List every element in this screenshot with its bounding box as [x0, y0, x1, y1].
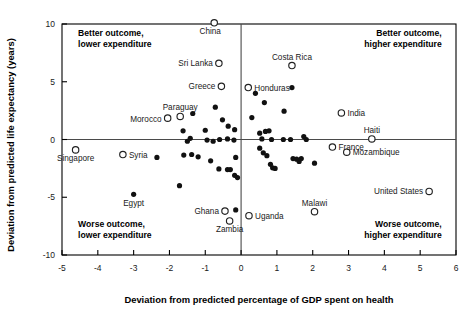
x-tick-label: 3 [346, 263, 351, 273]
data-point-costa-rica [289, 62, 295, 68]
quadrant-note-0-line-0: Better outcome, [78, 28, 143, 38]
data-point-singapore [72, 147, 78, 153]
data-point [281, 137, 286, 142]
x-tick-label: -2 [166, 263, 174, 273]
data-point [304, 137, 309, 142]
data-point [262, 100, 267, 105]
data-point [217, 137, 222, 142]
point-label-malawi: Malawi [302, 199, 328, 208]
data-point [185, 139, 190, 144]
point-label-united-states: United States [374, 187, 423, 196]
x-tick-label: -1 [201, 263, 209, 273]
data-point [312, 161, 317, 166]
point-label-ghana: Ghana [194, 207, 219, 216]
data-point [196, 154, 201, 159]
data-point-zambia [226, 218, 232, 224]
point-label-india: India [347, 109, 365, 118]
data-point [208, 158, 213, 163]
data-point-morocco [164, 115, 170, 121]
data-point-india [338, 110, 344, 116]
chart-canvas: -5-4-3-2-10123456 -10-50510 ChinaSri Lan… [0, 0, 467, 314]
quadrant-note-1-line-1: higher expenditure [364, 39, 442, 49]
data-point-malawi [311, 208, 317, 214]
data-point-ghana [222, 208, 228, 214]
data-point [232, 173, 237, 178]
data-point [259, 136, 264, 141]
data-point [204, 137, 209, 142]
data-point [216, 166, 221, 171]
quadrant-note-1-line-0: Better outcome, [376, 28, 441, 38]
data-point [289, 85, 294, 90]
quadrant-note-3-line-0: Worse outcome, [375, 219, 442, 229]
data-point [281, 109, 286, 114]
y-tick-label: 10 [46, 19, 56, 29]
x-tick-label: -3 [130, 263, 138, 273]
point-label-sri-lanka: Sri Lanka [178, 59, 213, 68]
point-label-syria: Syria [129, 151, 148, 160]
y-tick-label: -10 [43, 250, 56, 260]
data-point [154, 155, 159, 160]
data-point [203, 128, 208, 133]
data-point [228, 167, 233, 172]
data-point-paraguay [177, 113, 183, 119]
data-point [226, 124, 231, 129]
data-point [225, 136, 230, 141]
data-point [269, 137, 274, 142]
scatter-chart-figure: -5-4-3-2-10123456 -10-50510 ChinaSri Lan… [0, 0, 467, 314]
data-point [232, 127, 237, 132]
data-point [233, 207, 238, 212]
data-point-united-states [426, 188, 432, 194]
quadrant-note-2-line-0: Worse outcome, [78, 219, 145, 229]
data-point [233, 155, 238, 160]
point-label-mozambique: Mozambique [353, 148, 400, 157]
data-point-greece [218, 83, 224, 89]
data-point [299, 156, 304, 161]
data-point-honduras [245, 84, 251, 90]
data-point-uganda [246, 213, 252, 219]
x-tick-label: 5 [418, 263, 423, 273]
x-axis-ticks: -5-4-3-2-10123456 [58, 250, 458, 273]
data-point-france [329, 144, 335, 150]
point-label-uganda: Uganda [255, 212, 284, 221]
data-point-haiti [369, 136, 375, 142]
x-tick-label: -4 [94, 263, 102, 273]
data-point [288, 137, 293, 142]
x-tick-label: 6 [454, 263, 459, 273]
y-tick-label: -5 [47, 192, 55, 202]
x-tick-label: 0 [239, 263, 244, 273]
y-axis-ticks: -10-50510 [43, 19, 67, 260]
data-point [257, 146, 262, 151]
data-point [211, 139, 216, 144]
quadrant-note-3-line-1: higher expenditure [364, 230, 442, 240]
data-point-china [211, 20, 217, 26]
data-point [266, 128, 271, 133]
x-tick-label: 4 [382, 263, 387, 273]
x-axis-title: Deviation from predicted percentage of G… [124, 294, 393, 305]
point-label-egypt: Egypt [123, 199, 145, 208]
quadrant-note-0-line-1: lower expenditure [78, 39, 152, 49]
data-point [177, 183, 182, 188]
point-label-morocco: Morocco [130, 115, 162, 124]
data-point [220, 117, 225, 122]
quadrant-note-2-line-1: lower expenditure [78, 230, 152, 240]
data-point-labels: ChinaSri LankaCosta RicaGreeceHondurasIn… [57, 27, 423, 234]
data-point-syria [120, 151, 126, 157]
data-point [180, 128, 185, 133]
x-tick-label: 2 [310, 263, 315, 273]
data-point [264, 153, 269, 158]
point-label-zambia: Zambia [216, 225, 244, 234]
data-point [189, 152, 194, 157]
x-tick-label: 1 [275, 263, 280, 273]
data-point-sri-lanka [216, 60, 222, 66]
data-point [213, 105, 218, 110]
point-label-greece: Greece [189, 82, 216, 91]
data-point [231, 137, 236, 142]
point-label-costa-rica: Costa Rica [272, 53, 312, 62]
point-label-china: China [200, 27, 222, 36]
y-tick-label: 5 [50, 77, 55, 87]
data-point [181, 152, 186, 157]
point-label-honduras: Honduras [254, 84, 290, 93]
y-tick-label: 0 [50, 135, 55, 145]
y-axis-title: Deviation from predicted life expectancy… [5, 38, 16, 252]
data-point [249, 115, 254, 120]
